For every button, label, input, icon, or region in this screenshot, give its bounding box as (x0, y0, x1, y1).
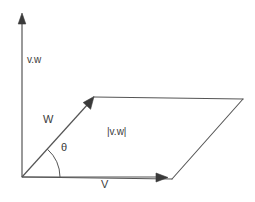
parallelogram-top-edge (94, 97, 243, 99)
v-vector-label: V (101, 179, 108, 190)
vector-parallelogram-figure (0, 0, 255, 202)
w-vector-label: W (43, 114, 53, 125)
vertical-axis-label: v.w (27, 55, 41, 65)
v-vector-arrow (22, 173, 168, 182)
theta-angle-arc (48, 149, 61, 177)
parallelogram-outline (22, 97, 243, 179)
theta-angle-label: θ (61, 142, 67, 153)
parallelogram-right-edge (172, 99, 243, 179)
w-vector-line (22, 104, 88, 177)
parallelogram-area-label: |v.w| (107, 127, 126, 137)
vertical-axis-arrowhead (18, 13, 26, 24)
v-vector-arrowhead (156, 173, 168, 182)
vertical-axis-arrow (18, 13, 26, 177)
diagram-canvas: v.w W θ |v.w| V (0, 0, 255, 202)
